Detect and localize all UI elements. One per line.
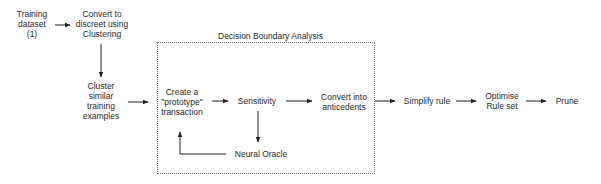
node-neural-oracle: Neural Oracle xyxy=(226,149,296,159)
node-create-prototype: Create a "prototype" transaction xyxy=(152,87,212,117)
node-optimise-rule-set: Optimise Rule set xyxy=(478,91,526,111)
node-cluster-similar: Cluster similar training examples xyxy=(76,81,126,121)
node-convert-antecedents: Convert into anticedents xyxy=(312,92,376,112)
node-prune: Prune xyxy=(550,96,584,106)
node-convert-discreet: Convert to discreet using Clustering xyxy=(71,9,133,39)
node-sensitivity: Sensitivity xyxy=(228,96,286,106)
node-simplify-rule: Simplify rule xyxy=(397,96,457,106)
node-training-dataset: Training dataset (1) xyxy=(10,9,54,39)
group-title: Decision Boundary Analysis xyxy=(218,31,323,41)
